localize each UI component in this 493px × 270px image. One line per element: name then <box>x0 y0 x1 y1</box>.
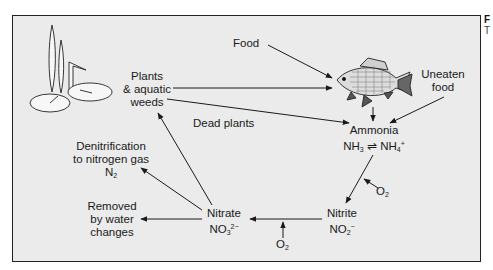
arrow-food-to-fish <box>268 45 332 78</box>
arrow-ammonia-to-nitrite <box>346 155 373 203</box>
label-nitrite: Nitrite NO2− <box>322 207 362 239</box>
fish-illustration <box>337 58 412 107</box>
label-dead-plants: Dead plants <box>193 117 254 130</box>
label-o2-nitrite: O2 <box>276 238 289 254</box>
label-plants: Plants & aquatic weeds <box>117 70 177 109</box>
arrow-uneaten-to-ammonia <box>390 97 444 123</box>
label-nitrate: Nitrate NO32− <box>202 207 246 239</box>
side-text-top: F <box>484 14 490 25</box>
label-ammonia: Ammonia NH3 ⇌ NH4+ <box>340 124 408 156</box>
label-denitrification: Denitrification to nitrogen gas N2 <box>68 140 154 182</box>
label-o2-ammonia: O2 <box>376 185 389 201</box>
label-removed: Removed by water changes <box>84 200 140 239</box>
label-uneaten-food: Uneaten food <box>418 68 468 94</box>
equilibrium-arrows-icon: ⇌ <box>367 140 377 152</box>
side-text-bottom: T <box>484 25 490 36</box>
plants-illustration <box>30 25 112 112</box>
label-food: Food <box>233 37 259 50</box>
